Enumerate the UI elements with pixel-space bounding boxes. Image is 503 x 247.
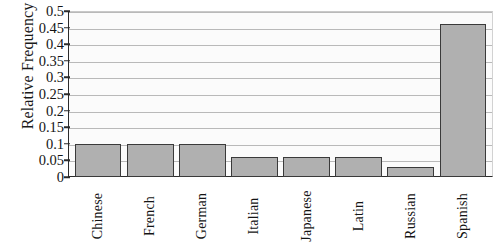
bar bbox=[387, 167, 434, 177]
x-label-slot: Chinese bbox=[75, 178, 122, 247]
bar bbox=[75, 144, 122, 177]
x-label-slot: French bbox=[127, 178, 174, 247]
bar-slot bbox=[387, 11, 434, 177]
x-tick-label: Russian bbox=[403, 193, 419, 239]
bar-slot bbox=[127, 11, 174, 177]
bar-slot bbox=[179, 11, 226, 177]
x-tick-label: German bbox=[194, 193, 210, 239]
bar-chart-figure: Relative Frequency 0.50.450.40.350.30.25… bbox=[0, 0, 503, 247]
bar bbox=[127, 144, 174, 177]
bar bbox=[440, 24, 487, 177]
x-tick-label: Spanish bbox=[455, 193, 471, 239]
x-label-slot: Latin bbox=[335, 178, 382, 247]
bar-slot bbox=[75, 11, 122, 177]
x-tick-label: Italian bbox=[246, 197, 262, 234]
x-label-slot: Italian bbox=[231, 178, 278, 247]
x-label-slot: Spanish bbox=[440, 178, 487, 247]
x-label-slot: Japanese bbox=[283, 178, 330, 247]
bar bbox=[231, 157, 278, 177]
x-tick-label: French bbox=[142, 196, 158, 236]
x-tick-label: Chinese bbox=[90, 193, 106, 240]
x-label-slot: Russian bbox=[387, 178, 434, 247]
bars-container bbox=[68, 11, 493, 177]
bar-slot bbox=[440, 11, 487, 177]
bar bbox=[335, 157, 382, 177]
bar-slot bbox=[335, 11, 382, 177]
bar-slot bbox=[231, 11, 278, 177]
x-tick-label: Latin bbox=[351, 201, 367, 232]
x-axis-category-labels: ChineseFrenchGermanItalianJapaneseLatinR… bbox=[68, 178, 493, 247]
x-tick-label: Japanese bbox=[299, 190, 315, 241]
bar bbox=[283, 157, 330, 177]
bar bbox=[179, 144, 226, 177]
bar-slot bbox=[283, 11, 330, 177]
x-label-slot: German bbox=[179, 178, 226, 247]
